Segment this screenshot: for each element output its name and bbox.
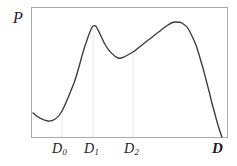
plot-border <box>31 7 227 137</box>
d1-base: D <box>84 141 94 156</box>
probability-curve <box>33 22 222 137</box>
data-curve-group <box>33 22 222 137</box>
d0-subscript: 0 <box>62 147 66 157</box>
d2-base: D <box>124 141 134 156</box>
gridlines <box>62 26 133 137</box>
x-tick-label-d2: D2 <box>124 142 139 156</box>
d2-subscript: 2 <box>134 147 138 157</box>
figure-root: P D0 D1 D2 D <box>0 0 237 166</box>
y-axis-label: P <box>13 10 23 26</box>
d0-base: D <box>52 141 62 156</box>
x-tick-label-d1: D1 <box>84 142 99 156</box>
axis-frame <box>31 7 227 137</box>
x-tick-label-d0: D0 <box>52 142 67 156</box>
d1-subscript: 1 <box>94 147 98 157</box>
x-axis-label: D <box>212 141 223 156</box>
plot-canvas <box>0 0 237 166</box>
